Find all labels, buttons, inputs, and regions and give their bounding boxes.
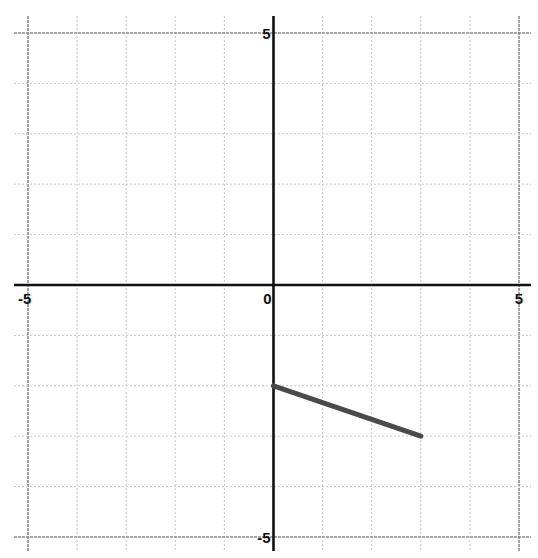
y-tick-label: -5 <box>257 529 270 546</box>
x-tick-label: 5 <box>515 290 523 307</box>
y-tick-label: 5 <box>262 25 270 42</box>
x-tick-label: -5 <box>18 290 31 307</box>
line-segment <box>274 386 421 436</box>
x-tick-label: 0 <box>263 290 271 307</box>
coordinate-plane: -5055-5 <box>0 0 538 558</box>
axes <box>14 16 531 551</box>
plot-series <box>274 386 421 436</box>
